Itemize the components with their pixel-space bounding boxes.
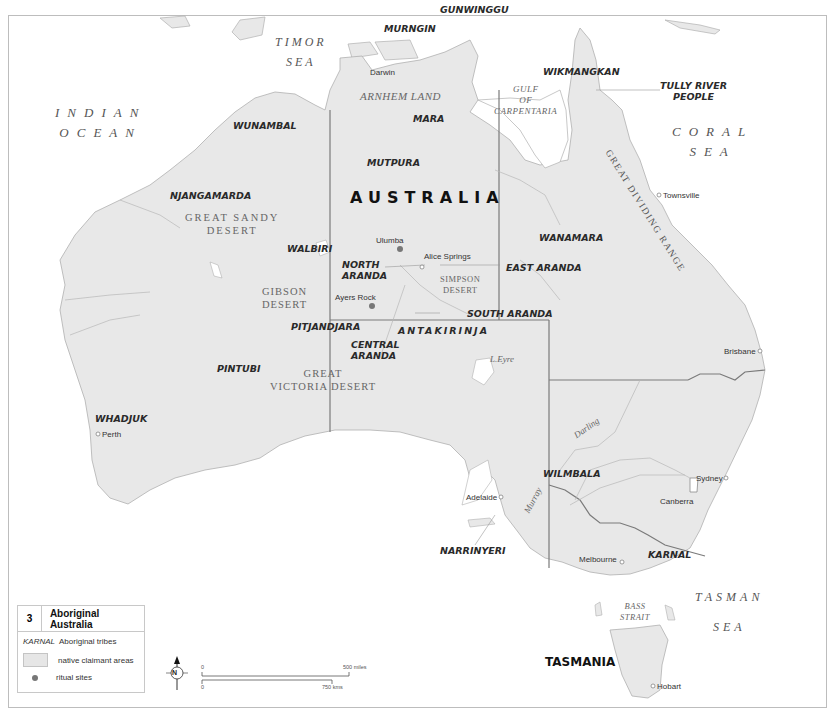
legend-tribe-desc: Aboriginal tribes — [59, 637, 116, 646]
tribe-narrinyeri: NARRINYERI — [440, 545, 506, 556]
mainland-outline — [60, 28, 765, 575]
city-alice-springs: Alice Springs — [424, 252, 471, 261]
sea-label-indian-ocean: INDIANOCEAN — [55, 103, 146, 143]
city-canberra: Canberra — [660, 497, 693, 506]
tribe-central-aranda: CENTRALARANDA — [351, 339, 400, 361]
legend-row-ritual: ritual sites — [23, 673, 92, 682]
region-arnhem-land: ARNHEM LAND — [360, 90, 441, 103]
scale-kms-end: 750 kms — [322, 684, 343, 690]
city-sydney: Sydney — [696, 474, 723, 483]
scale-kms-start: 0 — [201, 684, 204, 690]
lake-eyre: L.Eyre — [490, 354, 514, 364]
ritual-site-label-ayers-rock: Ayers Rock — [335, 293, 376, 302]
tribe-gunwinggu: GUNWINGGU — [440, 4, 509, 15]
tribe-whadjuk: WHADJUK — [95, 413, 147, 424]
sea-label-gulf-carpentaria: GULFOFCARPENTARIA — [494, 84, 557, 117]
city-melbourne: Melbourne — [579, 555, 617, 564]
legend-row-tribes: KARNAL Aboriginal tribes — [23, 637, 116, 646]
region-gibson-desert: GIBSONDESERT — [262, 285, 307, 311]
tribe-murngin: MURNGIN — [384, 23, 436, 34]
map-legend: 3 Aboriginal Australia KARNAL Aboriginal… — [17, 605, 145, 693]
legend-claimant-desc: native claimant areas — [58, 656, 134, 665]
ritual-site-ayers-rock — [369, 303, 375, 309]
state-label-tasmania: TASMANIA — [545, 655, 615, 669]
ritual-site-ulumba — [397, 246, 403, 252]
map-number: 3 — [18, 606, 42, 631]
city-hobart: Hobart — [657, 682, 681, 691]
tribe-pitjandjara: PITJANDJARA — [291, 321, 360, 332]
tribe-wilmbala: WILMBALA — [543, 468, 601, 479]
scale-miles-start: 0 — [201, 664, 204, 670]
map-title: Aboriginal Australia — [42, 608, 144, 630]
ritual-site-icon — [32, 675, 38, 681]
north-label: N — [172, 669, 177, 676]
tribe-east-aranda: EAST ARANDA — [506, 262, 582, 273]
region-simpson-desert: SIMPSONDESERT — [440, 274, 480, 296]
sea-label-tasman-sea: TASMANSEA — [695, 582, 763, 642]
legend-row-claimant: native claimant areas — [23, 653, 134, 667]
tribe-mara: MARA — [413, 113, 444, 124]
claimant-area-swatch — [23, 653, 48, 667]
city-townsville: Townsville — [663, 191, 699, 200]
city-darwin: Darwin — [370, 68, 395, 77]
city-adelaide: Adelaide — [466, 493, 497, 502]
tribe-wikmangkan: WIKMANGKAN — [543, 66, 620, 77]
ritual-site-label-ulumba: Ulumba — [376, 236, 404, 245]
tribe-walbiri: WALBIRI — [287, 243, 332, 254]
tribe-north-aranda: NORTHARANDA — [342, 259, 387, 281]
region-great-victoria-desert: GREATVICTORIA DESERT — [270, 367, 376, 393]
legend-tribe-sample: KARNAL — [23, 637, 55, 646]
tribe-pintubi: PINTUBI — [217, 363, 260, 374]
tribe-mutpura: MUTPURA — [367, 157, 420, 168]
tribe-wunambal: WUNAMBAL — [233, 120, 297, 131]
tribe-south-aranda: SOUTH ARANDA — [467, 308, 553, 319]
sea-label-coral-sea: CORALSEA — [672, 122, 753, 162]
region-great-sandy-desert: GREAT SANDYDESERT — [185, 211, 279, 237]
tribe-njangamarda: NJANGAMARDA — [170, 190, 251, 201]
city-brisbane: Brisbane — [724, 347, 756, 356]
sea-label-timor-sea: TIMORSEA — [275, 32, 327, 72]
country-label: AUSTRALIA — [350, 188, 505, 207]
scale-miles-end: 500 miles — [343, 664, 367, 670]
legend-ritual-desc: ritual sites — [56, 673, 92, 682]
tribe-wanamara: WANAMARA — [539, 232, 603, 243]
tribe-tully-river-people: TULLY RIVERPEOPLE — [660, 80, 727, 102]
city-perth: Perth — [102, 430, 121, 439]
tribe-antakirinja: ANTAKIRINJA — [398, 325, 489, 336]
sea-label-bass-strait: BASSSTRAIT — [620, 601, 650, 623]
tribe-karnal: KARNAL — [648, 549, 691, 560]
